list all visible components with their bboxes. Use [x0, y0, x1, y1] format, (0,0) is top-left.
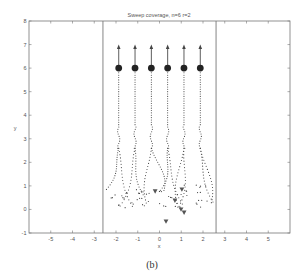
- trajectory-dot: [122, 177, 123, 178]
- x-tick-label: -1: [135, 236, 140, 242]
- trajectory-dot: [124, 199, 125, 200]
- trajectory-dot: [167, 82, 168, 83]
- agent-markers: [115, 65, 203, 72]
- trajectory-dot: [178, 197, 179, 198]
- trajectory-dot: [211, 198, 212, 199]
- trajectory-dot: [110, 184, 111, 185]
- trajectory-dot: [167, 164, 168, 165]
- trajectory-dot: [151, 108, 152, 109]
- trajectory-dot: [167, 98, 168, 99]
- trajectory-dot: [123, 183, 124, 184]
- trajectory-dot: [146, 169, 147, 170]
- trajectory-dot: [151, 110, 152, 111]
- trajectory-dot: [118, 82, 119, 83]
- trajectory-dot: [118, 89, 119, 90]
- trajectory-dot: [118, 143, 119, 144]
- trajectory-dot: [167, 169, 168, 170]
- trajectory-dot: [201, 157, 202, 158]
- sweep-coverage-chart: -5-4-3-2-1012345-1012345678 Sweep covera…: [0, 0, 304, 280]
- trajectory-dot: [151, 122, 152, 123]
- trajectory-dot: [118, 126, 119, 127]
- trajectory-dot: [199, 145, 200, 146]
- trajectory-dot: [183, 105, 184, 106]
- trajectory-dot: [151, 103, 152, 104]
- x-tick-label: 0: [158, 236, 161, 242]
- trajectory-dot: [130, 183, 131, 184]
- trajectory-dot: [202, 169, 203, 170]
- trajectory-dot: [200, 148, 201, 149]
- trajectory-dot: [151, 89, 152, 90]
- trajectory-dot: [185, 177, 186, 178]
- trajectory-dot: [183, 110, 184, 111]
- trajectory-dot: [200, 134, 201, 135]
- trajectory-dot: [203, 178, 204, 179]
- trajectory-dot: [135, 166, 136, 167]
- trajectory-dot: [133, 157, 134, 158]
- trajectory-dot: [167, 162, 168, 163]
- trajectory-dot: [175, 194, 176, 195]
- trajectory-dot: [139, 186, 140, 187]
- trajectory-dot: [151, 93, 152, 94]
- trajectory-dot: [183, 98, 184, 99]
- trajectory-dot: [205, 187, 206, 188]
- scatter-dot: [198, 200, 199, 201]
- trajectory-dot: [135, 143, 136, 144]
- y-tick-label: 8: [23, 18, 26, 24]
- trajectory-dot: [156, 159, 157, 160]
- trajectory-dot: [184, 136, 185, 137]
- trajectory-dot: [106, 189, 107, 190]
- trajectory-dot: [118, 96, 119, 97]
- trajectory-dot: [183, 79, 184, 80]
- trajectory-dot: [118, 105, 119, 106]
- scatter-dot: [141, 191, 142, 192]
- trajectory-dot: [212, 187, 213, 188]
- scatter-dot: [141, 198, 142, 199]
- scatter-dot: [196, 204, 197, 205]
- trajectory-dot: [151, 148, 152, 149]
- trajectory-dot: [183, 122, 184, 123]
- scatter-dot: [114, 194, 115, 195]
- trajectory-dot: [184, 131, 185, 132]
- trajectory-dot: [183, 148, 184, 149]
- trajectory-dot: [172, 182, 173, 183]
- trajectory-dot: [135, 141, 136, 142]
- trajectory-dot: [167, 124, 168, 125]
- trajectory-dot: [150, 154, 151, 155]
- trajectory-dot: [167, 77, 168, 78]
- trajectory-dot: [184, 170, 185, 171]
- trajectory-dot: [175, 185, 176, 186]
- trajectory-dot: [164, 188, 165, 189]
- trajectory-dot: [134, 91, 135, 92]
- trajectory-dot: [170, 169, 171, 170]
- trajectory-dot: [151, 112, 152, 113]
- trajectory-dot: [206, 166, 207, 167]
- trajectory-dot: [183, 157, 184, 158]
- target-triangle-icon: [180, 187, 185, 191]
- trajectory-dot: [118, 134, 119, 135]
- trajectory-dot: [167, 115, 168, 116]
- trajectory-dot: [164, 178, 165, 179]
- trajectory-dot: [152, 145, 153, 146]
- trajectory-dot: [200, 72, 201, 73]
- trajectory-dot: [200, 103, 201, 104]
- heading-arrows: [117, 45, 202, 69]
- trajectory-dot: [177, 172, 178, 173]
- trajectory-dot: [150, 151, 151, 152]
- trajectory-dot: [183, 91, 184, 92]
- trajectory-dot: [152, 143, 153, 144]
- scatter-dot: [199, 187, 200, 188]
- trajectory-dot: [167, 112, 168, 113]
- trajectory-dot: [127, 196, 128, 197]
- scatter-dot: [148, 201, 149, 202]
- trajectory-dot: [118, 150, 119, 151]
- chart-title: Sweep coverage, n=6 r=2: [128, 12, 191, 18]
- arrow-head-icon: [182, 45, 186, 50]
- scatter-dot: [126, 192, 127, 193]
- trajectory-dot: [134, 136, 135, 137]
- trajectory-dot: [200, 110, 201, 111]
- trajectory-dot: [118, 108, 119, 109]
- trajectory-dot: [151, 91, 152, 92]
- trajectory-dot: [134, 93, 135, 94]
- y-tick-label: -1: [22, 230, 27, 236]
- y-tick-label: 6: [23, 65, 26, 71]
